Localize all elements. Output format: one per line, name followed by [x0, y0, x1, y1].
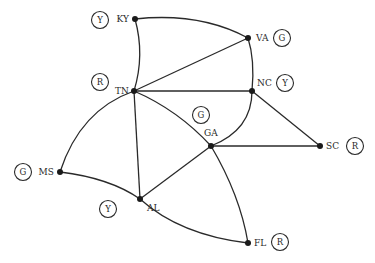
- color-badge-letter: R: [97, 77, 104, 87]
- edge-al-ga: [140, 146, 211, 199]
- node-dot: [137, 196, 143, 202]
- edge-tn-al: [134, 91, 140, 199]
- color-badge-letter: R: [277, 237, 284, 247]
- node-dot: [317, 143, 323, 149]
- node-dot: [208, 143, 214, 149]
- node-nc: NCY: [249, 75, 294, 95]
- edge-ms-al: [60, 172, 140, 199]
- node-label: VA: [255, 33, 269, 43]
- node-dot: [245, 35, 251, 41]
- node-label: MS: [39, 167, 54, 177]
- color-badge-letter: R: [352, 141, 359, 151]
- edge-ga-fl: [211, 146, 248, 243]
- color-badge-letter: Y: [96, 15, 103, 25]
- edge-ky-va: [135, 18, 248, 38]
- node-dot: [249, 88, 255, 94]
- edge-va-nc: [248, 38, 253, 91]
- nodes-group: KYYVAGTNRNCYGAGSCRMSGALYFLR: [15, 12, 364, 251]
- node-label: AL: [146, 203, 159, 213]
- edge-tn-ms: [60, 91, 134, 172]
- node-sc: SCR: [317, 138, 364, 155]
- node-dot: [57, 169, 63, 175]
- edge-tn-va: [134, 38, 248, 91]
- node-label: NC: [257, 78, 272, 88]
- edge-ky-tn: [134, 19, 140, 91]
- node-label: KY: [117, 14, 130, 24]
- node-label: FL: [254, 238, 266, 248]
- node-al: ALY: [100, 196, 160, 218]
- node-fl: FLR: [245, 234, 289, 251]
- state-graph: KYYVAGTNRNCYGAGSCRMSGALYFLR: [0, 0, 375, 263]
- node-dot: [132, 16, 138, 22]
- node-ga: GAG: [193, 107, 219, 150]
- node-label: TN: [115, 86, 129, 96]
- color-badge-letter: G: [198, 110, 205, 120]
- node-va: VAG: [245, 30, 291, 47]
- color-badge-letter: Y: [281, 78, 288, 88]
- node-label: SC: [326, 141, 339, 151]
- color-badge-letter: G: [20, 167, 27, 177]
- edge-nc-sc: [252, 91, 320, 146]
- color-badge-letter: Y: [104, 204, 111, 214]
- node-dot: [245, 240, 251, 246]
- color-badge-letter: G: [279, 33, 286, 43]
- node-ms: MSG: [15, 164, 64, 181]
- node-label: GA: [204, 128, 218, 138]
- node-dot: [131, 88, 137, 94]
- node-ky: KYY: [92, 12, 139, 29]
